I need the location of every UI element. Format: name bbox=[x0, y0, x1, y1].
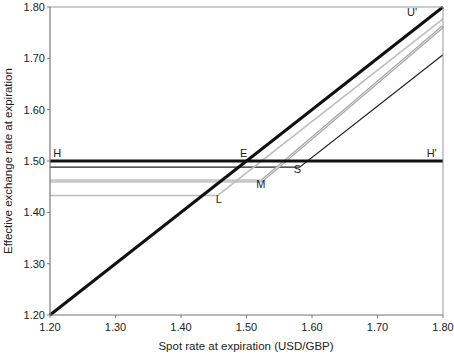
x-tick-label: 1.60 bbox=[301, 321, 322, 333]
point-label-h: H bbox=[53, 147, 61, 159]
y-tick-label: 1.30 bbox=[24, 258, 45, 270]
point-label-m: M bbox=[256, 178, 265, 190]
point-label-l: L bbox=[216, 193, 222, 205]
series-layer bbox=[50, 7, 443, 315]
x-tick-label: 1.40 bbox=[170, 321, 191, 333]
x-axis-label: Spot rate at expiration (USD/GBP) bbox=[158, 340, 333, 352]
y-tick-label: 1.70 bbox=[24, 52, 45, 64]
x-tick-label: 1.80 bbox=[432, 321, 453, 333]
x-tick-label: 1.50 bbox=[236, 321, 257, 333]
chart-svg: 1.201.301.401.501.601.701.801.201.301.40… bbox=[0, 0, 454, 357]
y-tick-label: 1.80 bbox=[24, 1, 45, 13]
chart-container: 1.201.301.401.501.601.701.801.201.301.40… bbox=[0, 0, 454, 357]
series-option-l bbox=[50, 19, 443, 196]
y-axis-label: Effective exchange rate at expiration bbox=[2, 68, 14, 254]
x-tick-label: 1.30 bbox=[105, 321, 126, 333]
y-tick-label: 1.20 bbox=[24, 309, 45, 321]
y-tick-label: 1.50 bbox=[24, 155, 45, 167]
point-label-uprime: U' bbox=[407, 6, 417, 18]
point-label-s: S bbox=[294, 163, 301, 175]
point-label-hprime: H' bbox=[427, 147, 437, 159]
x-tick-label: 1.70 bbox=[367, 321, 388, 333]
y-tick-label: 1.40 bbox=[24, 206, 45, 218]
y-tick-label: 1.60 bbox=[24, 104, 45, 116]
point-label-e: E bbox=[240, 147, 247, 159]
x-tick-label: 1.20 bbox=[39, 321, 60, 333]
